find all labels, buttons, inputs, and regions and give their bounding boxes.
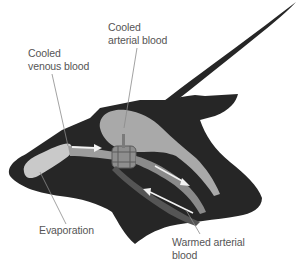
- label-line: Cooled: [28, 47, 89, 60]
- label-line: Warmed arterial: [172, 236, 245, 249]
- label-warmed-arterial-blood: Warmed arterial blood: [172, 236, 245, 261]
- label-line: Cooled: [108, 21, 167, 34]
- label-cooled-venous-blood: Cooled venous blood: [28, 47, 89, 72]
- label-line: blood: [172, 249, 245, 262]
- label-cooled-arterial-blood: Cooled arterial blood: [108, 21, 167, 46]
- label-line: arterial blood: [108, 34, 167, 47]
- label-line: Evaporation: [39, 224, 94, 237]
- antelope-heat-exchange-diagram: Cooled arterial blood Cooled venous bloo…: [0, 0, 299, 264]
- label-evaporation: Evaporation: [39, 224, 94, 237]
- label-line: venous blood: [28, 60, 89, 73]
